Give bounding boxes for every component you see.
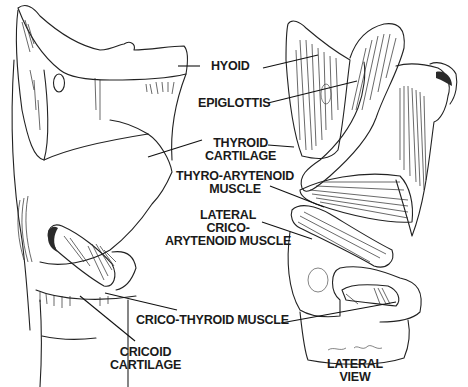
leader-crico-thyroid-right [281, 302, 396, 323]
caption-lateral-view: LATERAL VIEW [327, 358, 383, 384]
label-thyro-arytenoid-muscle: THYRO-ARYTENOID MUSCLE [176, 170, 294, 196]
label-hyoid: HYOID [211, 60, 250, 73]
crico-thyroid-muscle-left [49, 225, 115, 286]
thyroid-foramen [54, 74, 65, 92]
hyoid-bone-left [18, 6, 187, 80]
leader-epiglottis [268, 81, 357, 103]
leader-thyroid-left [148, 140, 202, 157]
label-thyroid-cartilage: THYROID CARTILAGE [205, 137, 276, 163]
leader-crico-thyroid-left [105, 293, 177, 310]
cricoid-cartilage-left [36, 290, 136, 299]
lateral-crico-arytenoid-muscle-right [291, 206, 393, 267]
label-lateral-crico-arytenoid-muscle: LATERAL CRICO- ARYTENOID MUSCLE [165, 209, 291, 248]
label-epiglottis: EPIGLOTTIS [198, 97, 270, 110]
leader-hyoid-right [263, 55, 318, 68]
leader-cricoid-cartilage [80, 296, 135, 341]
left-larynx-drawing [12, 6, 187, 387]
right-larynx-drawing [286, 21, 457, 364]
label-crico-thyroid-muscle: CRICO-THYROID MUSCLE [136, 314, 289, 327]
larynx-diagram: HYOID EPIGLOTTIS THYROID CARTILAGE THYRO… [0, 0, 468, 387]
label-cricoid-cartilage: CRICOID CARTILAGE [110, 346, 181, 372]
